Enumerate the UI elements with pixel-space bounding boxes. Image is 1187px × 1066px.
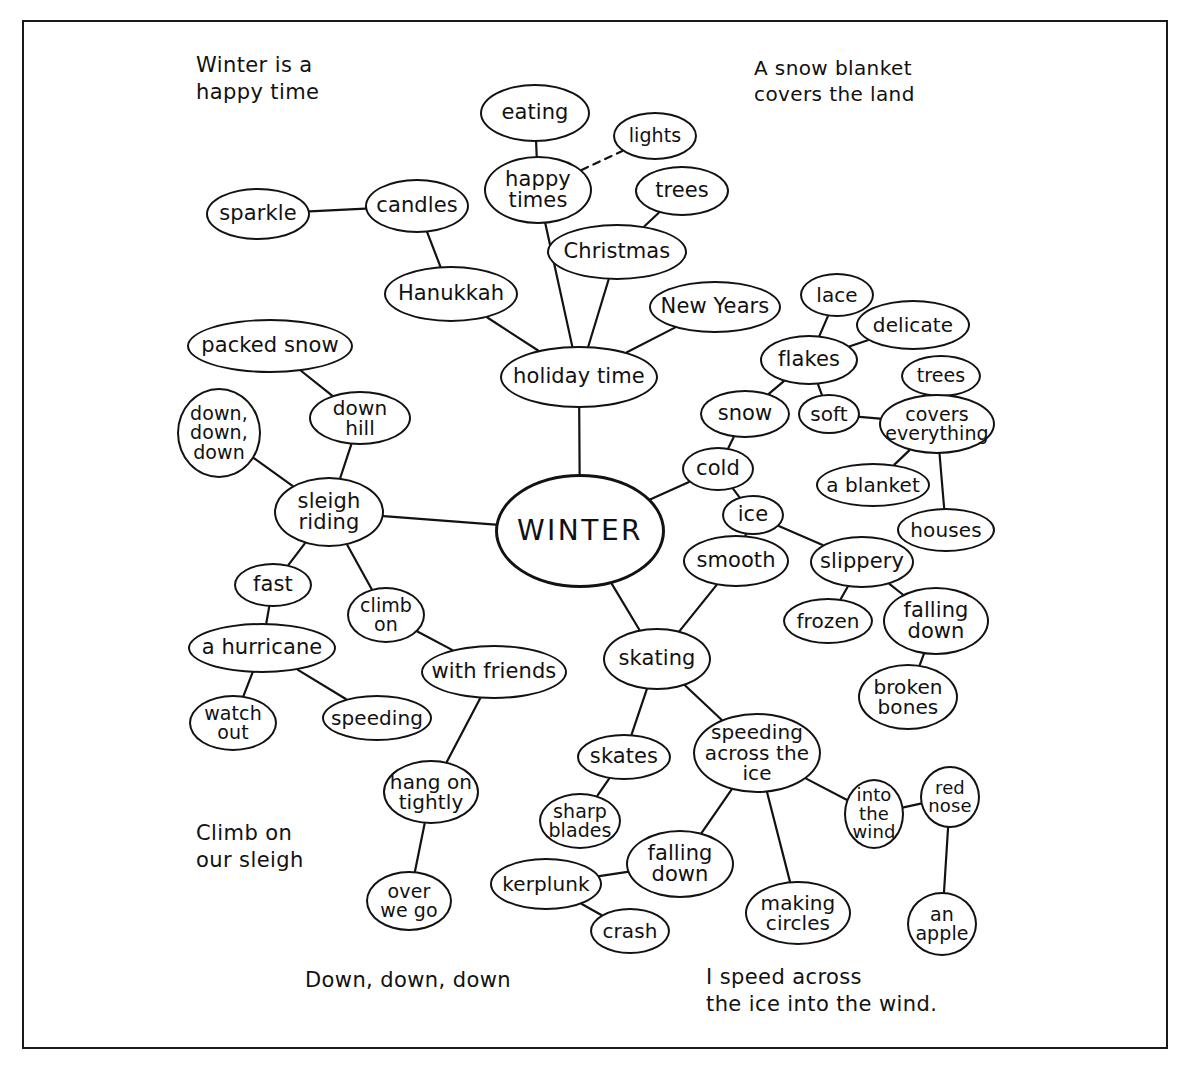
node-a-hurricane[interactable]: a hurricane <box>188 623 336 673</box>
node-label: sharp blades <box>544 802 615 841</box>
node-ice[interactable]: ice <box>722 495 784 535</box>
edge-skating-to-speeding-ice <box>685 685 721 719</box>
node-label: sleigh riding <box>294 491 365 534</box>
node-winter[interactable]: WINTER <box>495 474 665 588</box>
edge-new-years-to-holiday-time <box>627 328 675 353</box>
edge-sleigh-riding-to-climb-on <box>347 545 371 589</box>
node-frozen[interactable]: frozen <box>783 598 873 644</box>
edge-red-nose-to-an-apple <box>944 828 948 892</box>
node-eating[interactable]: eating <box>480 84 590 142</box>
node-over-we-go[interactable]: over we go <box>366 871 452 931</box>
node-label: crash <box>598 921 661 941</box>
edge-down-hill-to-sleigh-riding <box>340 445 351 478</box>
cap-winter-happy: Winter is a happy time <box>196 52 319 106</box>
node-label: trees <box>651 180 713 201</box>
edge-hang-on-tightly-to-over-we-go <box>415 824 425 872</box>
node-christmas[interactable]: Christmas <box>547 224 687 280</box>
node-falling-down-b[interactable]: falling down <box>626 830 734 898</box>
node-with-friends[interactable]: with friends <box>421 645 567 699</box>
node-label: holiday time <box>509 366 649 387</box>
node-label: smooth <box>692 550 779 571</box>
node-delicate[interactable]: delicate <box>856 300 970 350</box>
node-label: soft <box>806 404 852 424</box>
node-speeding-ice[interactable]: speeding across the ice <box>693 713 821 793</box>
edge-a-hurricane-to-watch-out <box>244 673 253 696</box>
node-sharp-blades[interactable]: sharp blades <box>539 793 621 849</box>
node-lights[interactable]: lights <box>613 112 697 160</box>
node-trees-right[interactable]: trees <box>901 355 981 397</box>
node-happy-times[interactable]: happy times <box>484 156 592 224</box>
node-new-years[interactable]: New Years <box>649 281 781 333</box>
node-label: making circles <box>757 893 840 934</box>
edge-a-hurricane-to-speeding <box>298 670 346 699</box>
edge-into-the-wind-to-red-nose <box>903 804 920 808</box>
node-skating[interactable]: skating <box>603 628 711 690</box>
node-label: into the wind <box>849 786 900 841</box>
node-packed-snow[interactable]: packed snow <box>187 319 353 373</box>
node-fast[interactable]: fast <box>234 563 312 607</box>
edge-covers-everything-to-a-blanket <box>894 450 909 464</box>
node-label: flakes <box>774 349 844 370</box>
node-red-nose[interactable]: red nose <box>920 766 980 828</box>
node-label: watch out <box>200 704 266 743</box>
node-label: down hill <box>329 398 391 439</box>
node-label: covers everything <box>881 405 993 444</box>
node-cold[interactable]: cold <box>682 447 754 491</box>
node-label: falling down <box>899 600 972 643</box>
node-label: snow <box>714 403 777 424</box>
node-label: skating <box>614 648 699 669</box>
cap-snow-blanket: A snow blanket covers the land <box>754 56 915 107</box>
node-label: red nose <box>924 779 975 816</box>
node-smooth[interactable]: smooth <box>683 535 789 587</box>
node-label: with friends <box>428 661 561 682</box>
node-a-blanket[interactable]: a blanket <box>816 463 930 507</box>
node-speeding[interactable]: speeding <box>322 695 432 741</box>
node-falling-down-r[interactable]: falling down <box>883 587 989 655</box>
node-label: speeding <box>327 708 427 728</box>
node-label: falling down <box>643 843 716 886</box>
node-snow[interactable]: snow <box>700 390 790 438</box>
node-label: slippery <box>816 551 908 572</box>
node-trees-top[interactable]: trees <box>635 166 729 216</box>
node-into-the-wind[interactable]: into the wind <box>844 779 904 849</box>
edge-kerplunk-to-crash <box>582 904 602 915</box>
node-flakes[interactable]: flakes <box>760 335 858 385</box>
cap-down-down-down: Down, down, down <box>305 967 511 994</box>
node-covers-everything[interactable]: covers everything <box>879 394 995 454</box>
node-climb-on[interactable]: climb on <box>347 587 425 643</box>
edge-flakes-to-snow <box>769 381 784 393</box>
node-crash[interactable]: crash <box>590 908 670 954</box>
node-label: delicate <box>869 315 957 335</box>
node-lace[interactable]: lace <box>800 273 874 317</box>
edge-winter-to-sleigh-riding <box>384 516 496 524</box>
node-sparkle[interactable]: sparkle <box>206 188 310 240</box>
node-label: over we go <box>376 882 441 921</box>
node-down-hill[interactable]: down hill <box>309 391 411 445</box>
node-kerplunk[interactable]: kerplunk <box>490 858 602 910</box>
node-label: a hurricane <box>198 637 327 658</box>
node-label: down, down, down <box>186 404 252 462</box>
cap-climb-sleigh: Climb on our sleigh <box>196 820 304 874</box>
node-hanukkah[interactable]: Hanukkah <box>384 266 518 322</box>
node-watch-out[interactable]: watch out <box>189 695 277 751</box>
node-houses[interactable]: houses <box>897 508 995 552</box>
node-label: frozen <box>792 611 863 631</box>
node-holiday-time[interactable]: holiday time <box>500 346 658 408</box>
edge-lace-to-flakes <box>820 316 828 335</box>
node-label: WINTER <box>513 517 647 546</box>
node-soft[interactable]: soft <box>798 394 860 434</box>
edge-delicate-to-flakes <box>850 340 868 346</box>
edge-speeding-ice-to-making-circles <box>767 792 790 881</box>
mindmap-page: eatinglightshappy timestreesChristmasspa… <box>0 0 1187 1066</box>
node-an-apple[interactable]: an apple <box>907 892 977 956</box>
node-slippery[interactable]: slippery <box>810 536 914 588</box>
node-label: kerplunk <box>498 874 593 894</box>
node-making-circles[interactable]: making circles <box>745 881 851 945</box>
node-down-down-down[interactable]: down, down, down <box>177 388 261 478</box>
node-skates[interactable]: skates <box>577 734 671 780</box>
node-broken-bones[interactable]: broken bones <box>858 664 958 730</box>
node-hang-on-tightly[interactable]: hang on tightly <box>383 760 479 824</box>
node-candles[interactable]: candles <box>365 179 469 233</box>
node-sleigh-riding[interactable]: sleigh riding <box>274 477 384 547</box>
edge-snow-to-cold <box>728 437 733 448</box>
